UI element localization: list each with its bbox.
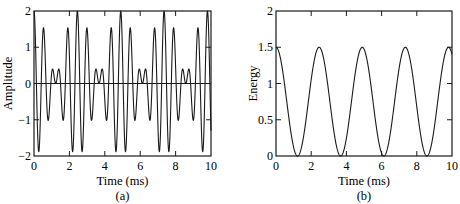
y-axis-label: Energy [246, 65, 260, 102]
x-tick-label: 8 [414, 159, 420, 173]
y-tick-label: 0 [25, 77, 31, 91]
x-tick-label: 0 [273, 159, 279, 173]
y-tick-label: 2 [267, 4, 273, 18]
panel-a-amplitude-plot: 0246810−2−1012Time (ms)Amplitude(a) [1, 4, 217, 203]
panel-label: (b) [357, 189, 372, 203]
x-axis-label: Time (ms) [97, 174, 149, 188]
y-tick-label: −2 [18, 149, 31, 163]
y-tick-label: 2 [25, 4, 31, 18]
x-tick-label: 2 [308, 159, 314, 173]
x-tick-label: 4 [102, 159, 108, 173]
y-tick-label: 0.5 [258, 113, 273, 127]
panel-b-energy-plot: 024681000.511.52Time (ms)Energy(b) [246, 4, 458, 203]
x-axis-label: Time (ms) [338, 174, 390, 188]
figure: 0246810−2−1012Time (ms)Amplitude(a) 0246… [0, 0, 460, 204]
amplitude-curve [34, 11, 211, 152]
x-tick-label: 0 [31, 159, 37, 173]
plot-frame [276, 11, 452, 156]
x-tick-label: 2 [66, 159, 72, 173]
x-tick-label: 8 [173, 159, 179, 173]
energy-curve [276, 47, 452, 156]
y-tick-label: −1 [18, 113, 31, 127]
y-axis-label: Amplitude [1, 56, 15, 110]
x-tick-label: 4 [343, 159, 349, 173]
x-tick-label: 10 [446, 159, 458, 173]
y-tick-label: 1.5 [258, 40, 273, 54]
y-tick-label: 1 [25, 40, 31, 54]
x-tick-label: 6 [379, 159, 385, 173]
x-tick-label: 10 [205, 159, 217, 173]
panel-label: (a) [116, 189, 130, 203]
x-tick-label: 6 [137, 159, 143, 173]
y-tick-label: 0 [267, 149, 273, 163]
y-tick-label: 1 [267, 77, 273, 91]
